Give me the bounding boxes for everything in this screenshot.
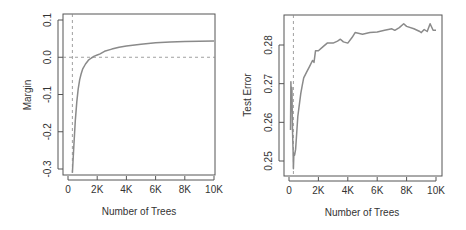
reference-lines bbox=[63, 14, 215, 175]
x-axis-label: Number of Trees bbox=[325, 207, 399, 218]
y-axis-label: Margin bbox=[22, 80, 33, 111]
test-error-chart: 02K4K6K8K10K 0.250.260.270.28 Number of … bbox=[242, 15, 445, 218]
margin-chart: 02K4K6K8K10K -0.3-0.2-0.10.00.1 Number o… bbox=[22, 13, 223, 217]
x-tick-label: 2K bbox=[91, 184, 104, 195]
y-tick-label: -0.2 bbox=[42, 123, 53, 141]
x-axis: 02K4K6K8K10K bbox=[65, 176, 223, 195]
y-tick-label: 0.28 bbox=[263, 35, 274, 55]
y-tick-label: 0.26 bbox=[263, 112, 274, 132]
y-tick-label: 0.0 bbox=[42, 50, 53, 64]
y-tick-label: 0.25 bbox=[263, 151, 274, 171]
y-axis-label: Test Error bbox=[242, 73, 253, 117]
x-tick-label: 0 bbox=[65, 184, 71, 195]
margin-series-line bbox=[72, 41, 214, 173]
y-tick-label: -0.3 bbox=[42, 160, 53, 178]
x-tick-label: 4K bbox=[342, 185, 355, 196]
x-tick-label: 4K bbox=[120, 184, 133, 195]
x-tick-label: 6K bbox=[149, 184, 162, 195]
x-axis-label: Number of Trees bbox=[102, 206, 176, 217]
y-tick-label: -0.1 bbox=[42, 85, 53, 103]
x-tick-label: 8K bbox=[179, 184, 192, 195]
x-tick-label: 10K bbox=[427, 185, 445, 196]
y-axis: 0.250.260.270.28 bbox=[263, 35, 284, 171]
plot-frame bbox=[284, 15, 442, 176]
x-axis: 02K4K6K8K10K bbox=[286, 177, 445, 196]
plot-frame bbox=[63, 14, 215, 175]
x-tick-label: 6K bbox=[371, 185, 384, 196]
test-error-series-line bbox=[291, 24, 437, 169]
figure: 02K4K6K8K10K -0.3-0.2-0.10.00.1 Number o… bbox=[0, 0, 466, 230]
x-tick-label: 8K bbox=[400, 185, 413, 196]
x-tick-label: 10K bbox=[205, 184, 223, 195]
x-tick-label: 2K bbox=[312, 185, 325, 196]
y-tick-label: 0.1 bbox=[42, 13, 53, 27]
y-tick-label: 0.27 bbox=[263, 73, 274, 93]
x-tick-label: 0 bbox=[286, 185, 292, 196]
y-axis: -0.3-0.2-0.10.00.1 bbox=[42, 13, 63, 178]
